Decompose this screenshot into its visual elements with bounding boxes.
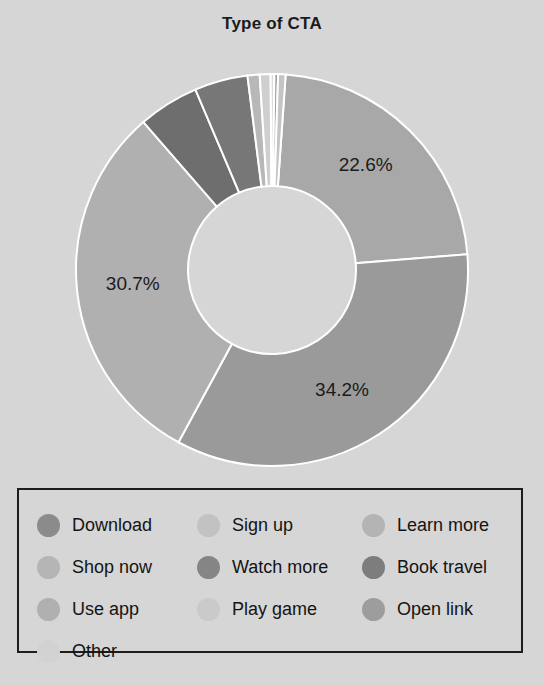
- legend-swatch-icon: [197, 598, 220, 621]
- legend-swatch-icon: [197, 514, 220, 537]
- legend-item-shop-now[interactable]: Shop now: [37, 546, 197, 588]
- legend-item-label: Shop now: [72, 558, 152, 576]
- legend-item-learn-more[interactable]: Learn more: [362, 504, 522, 546]
- legend-swatch-icon: [362, 556, 385, 579]
- legend-swatch-icon: [37, 640, 60, 663]
- legend-item-open-link[interactable]: Open link: [362, 588, 522, 630]
- legend-item-label: Sign up: [232, 516, 293, 534]
- legend-item-download[interactable]: Download: [37, 504, 197, 546]
- legend-swatch-icon: [37, 514, 60, 537]
- legend-item-sign-up[interactable]: Sign up: [197, 504, 362, 546]
- legend-item-other[interactable]: Other: [37, 630, 197, 672]
- legend-grid: DownloadSign upLearn moreShop nowWatch m…: [37, 504, 507, 672]
- legend-item-use-app[interactable]: Use app: [37, 588, 197, 630]
- chart-legend: DownloadSign upLearn moreShop nowWatch m…: [17, 488, 523, 653]
- legend-item-label: Use app: [72, 600, 139, 618]
- legend-item-label: Book travel: [397, 558, 487, 576]
- legend-item-label: Download: [72, 516, 152, 534]
- legend-swatch-icon: [362, 514, 385, 537]
- legend-item-label: Watch more: [232, 558, 328, 576]
- slice-label-learn-more: 22.6%: [339, 154, 393, 175]
- chart-page: Type of CTA 22.6%34.2%30.7% DownloadSign…: [0, 0, 544, 686]
- legend-swatch-icon: [37, 598, 60, 621]
- legend-item-label: Open link: [397, 600, 473, 618]
- legend-item-watch-more[interactable]: Watch more: [197, 546, 362, 588]
- legend-item-label: Other: [72, 642, 117, 660]
- legend-item-book-travel[interactable]: Book travel: [362, 546, 522, 588]
- legend-item-play-game[interactable]: Play game: [197, 588, 362, 630]
- legend-item-label: Play game: [232, 600, 317, 618]
- donut-chart-svg: 22.6%34.2%30.7%: [0, 50, 544, 490]
- legend-swatch-icon: [37, 556, 60, 579]
- page-title: Type of CTA: [0, 14, 544, 34]
- legend-swatch-icon: [362, 598, 385, 621]
- slice-label-shop-now: 30.7%: [106, 273, 160, 294]
- slice-label-download: 34.2%: [315, 379, 369, 400]
- legend-item-label: Learn more: [397, 516, 489, 534]
- donut-chart: 22.6%34.2%30.7%: [0, 50, 544, 490]
- legend-swatch-icon: [197, 556, 220, 579]
